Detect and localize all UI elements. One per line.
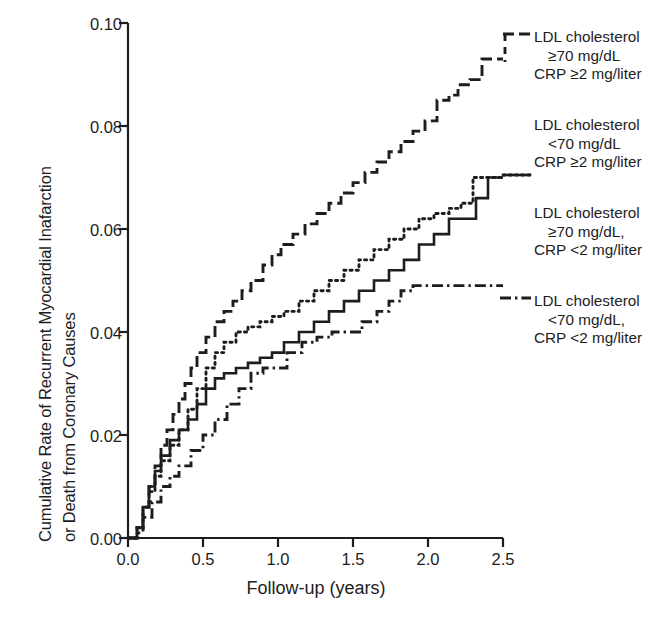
legend-entry-3-line2: <70 mg/dL, xyxy=(534,311,642,330)
legend-line-samples xyxy=(500,34,531,298)
legend-entry-2-line3: CRP <2 mg/liter xyxy=(534,241,642,260)
legend-entry-1-line1: LDL cholesterol xyxy=(534,116,642,135)
legend-entry-0-line2: ≥70 mg/dL xyxy=(534,47,642,66)
kaplan-meier-figure: Cumulative Rate of Recurrent Myocardial … xyxy=(0,0,672,617)
legend-entry-ldl-low-crp-high: LDL cholesterol <70 mg/dL CRP ≥2 mg/lite… xyxy=(534,116,642,172)
legend-entry-ldl-high-crp-high: LDL cholesterol ≥70 mg/dL CRP ≥2 mg/lite… xyxy=(534,28,642,84)
data-curves xyxy=(128,59,503,538)
legend-entry-0-line3: CRP ≥2 mg/liter xyxy=(534,65,642,84)
curve-ldl-low-crp-high xyxy=(128,178,503,539)
legend-entry-2-line1: LDL cholesterol xyxy=(534,204,642,223)
legend-entry-ldl-high-crp-low: LDL cholesterol ≥70 mg/dL, CRP <2 mg/lit… xyxy=(534,204,642,260)
legend-entry-3-line1: LDL cholesterol xyxy=(534,292,642,311)
legend-entry-2-line2: ≥70 mg/dL, xyxy=(534,223,642,242)
curve-ldl-low-crp-low xyxy=(128,286,503,538)
legend-entry-3-line3: CRP <2 mg/liter xyxy=(534,329,642,348)
legend-entry-ldl-low-crp-low: LDL cholesterol <70 mg/dL, CRP <2 mg/lit… xyxy=(534,292,642,348)
legend-entry-0-line1: LDL cholesterol xyxy=(534,28,642,47)
curve-ldl-high-crp-high xyxy=(128,59,503,538)
curve-ldl-high-crp-low xyxy=(128,178,503,539)
legend-entry-1-line3: CRP ≥2 mg/liter xyxy=(534,153,642,172)
legend-entry-1-line2: <70 mg/dL xyxy=(534,135,642,154)
